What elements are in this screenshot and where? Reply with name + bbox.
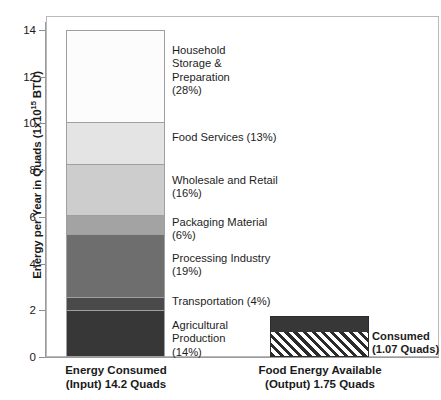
- x-axis-caption-left: Energy Consumed (Input) 14.2 Quads: [45, 363, 187, 391]
- y-tick-label-2: 2: [30, 302, 36, 318]
- y-tick-mark-10: [39, 123, 45, 124]
- y-tick-label-8: 8: [30, 162, 36, 178]
- segment-household-storage-preparation[interactable]: [66, 30, 165, 122]
- y-tick-label-10: 10: [23, 115, 36, 131]
- y-tick-label-4: 4: [30, 256, 36, 272]
- y-tick-label-0: 0: [30, 349, 36, 365]
- segment-processing-industry[interactable]: [66, 234, 165, 297]
- y-axis-line: [45, 22, 46, 358]
- label-consumed-callout: Consumed (1.07 Quads): [372, 330, 439, 357]
- segment-consumed-hatched[interactable]: [270, 332, 369, 357]
- chart-root: Energy per Year in Quads (1x1015 BTU) 0 …: [0, 0, 441, 400]
- label-household-storage-preparation: Household Storage & Preparation (28%): [172, 44, 230, 98]
- segment-not-consumed[interactable]: [270, 316, 369, 332]
- segment-food-services[interactable]: [66, 122, 165, 165]
- segment-packaging-material[interactable]: [66, 215, 165, 234]
- y-tick-mark-12: [39, 77, 45, 78]
- x-axis-line: [45, 357, 439, 358]
- segment-wholesale-retail[interactable]: [66, 164, 165, 215]
- y-tick-mark-2: [39, 310, 45, 311]
- x-axis-caption-right: Food Energy Available (Output) 1.75 Quad…: [239, 363, 401, 391]
- label-wholesale-retail: Wholesale and Retail (16%): [172, 174, 278, 201]
- label-transportation: Transportation (4%): [172, 295, 270, 308]
- y-tick-mark-14: [39, 30, 45, 31]
- y-tick-mark-6: [39, 217, 45, 218]
- label-food-services: Food Services (13%): [172, 131, 276, 144]
- y-tick-label-12: 12: [23, 69, 36, 85]
- label-packaging-material: Packaging Material (6%): [172, 216, 267, 243]
- label-agricultural-production: Agricultural Production (14%): [172, 319, 228, 359]
- y-tick-mark-8: [39, 170, 45, 171]
- y-tick-mark-0: [39, 357, 45, 358]
- y-axis-title-exponent: 15: [29, 101, 38, 109]
- y-tick-label-6: 6: [30, 209, 36, 225]
- label-processing-industry: Processing Industry (19%): [172, 252, 270, 279]
- segment-agricultural-production[interactable]: [66, 310, 165, 357]
- segment-transportation[interactable]: [66, 297, 165, 310]
- y-tick-mark-4: [39, 264, 45, 265]
- y-axis-title-prefix: Energy per Year in Quads (1x10: [31, 109, 43, 278]
- y-tick-label-14: 14: [23, 22, 36, 38]
